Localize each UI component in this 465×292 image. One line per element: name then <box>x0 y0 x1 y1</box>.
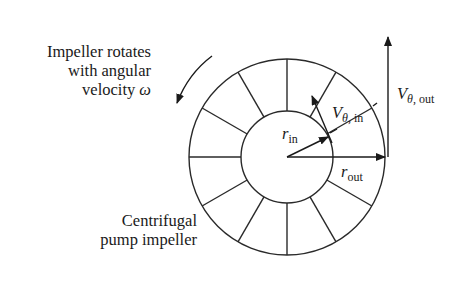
v-theta-out-label: Vθ, out <box>397 84 434 109</box>
rotation-arrow <box>177 56 212 103</box>
v-theta-out-leader <box>373 103 377 106</box>
rotation-label: Impeller rotates with angular velocity ω <box>47 42 151 99</box>
rotation-label-line1: Impeller rotates <box>47 42 151 61</box>
omega-symbol: ω <box>139 80 151 99</box>
impeller-label-line2: pump impeller <box>100 230 197 249</box>
rotation-label-line3: velocity ω <box>47 80 151 99</box>
v-theta-in-arrow <box>312 96 332 143</box>
impeller-label-line1: Centrifugal <box>100 211 197 230</box>
rotation-label-line2: with angular <box>47 61 151 80</box>
impeller-label: Centrifugal pump impeller <box>100 211 197 249</box>
v-theta-in-label: Vθ, in <box>332 103 363 128</box>
r-out-label: rout <box>341 162 363 187</box>
r-in-label: rin <box>282 124 298 149</box>
